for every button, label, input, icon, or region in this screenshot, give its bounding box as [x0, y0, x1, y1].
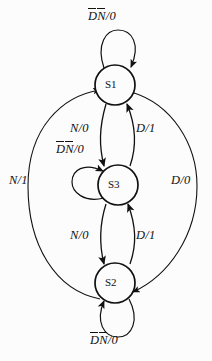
edge-label-s2-to-s1: N/1	[9, 173, 28, 188]
self-loop-label-s1: DN/0	[88, 9, 116, 24]
edge-label-s1-to-s3: N/0	[70, 121, 89, 136]
negated-d-symbol: D	[90, 333, 99, 348]
state-label-s3: S3	[108, 178, 120, 190]
edge-s2-to-s3	[128, 204, 135, 264]
self-loop-s1	[101, 30, 135, 68]
self-loop-output-s2: /0	[108, 333, 118, 347]
state-diagram-canvas: S1 S3 S2 DN/0 DN/0 DN/0 N/0 D/1 N/0 D/1 …	[0, 0, 212, 361]
edge-label-s3-to-s2: N/0	[70, 228, 89, 243]
edge-s3-to-s2	[100, 204, 106, 264]
negated-n-symbol: N	[97, 9, 106, 24]
self-loop-output-s3: /0	[74, 142, 84, 156]
negated-d-symbol: D	[56, 142, 65, 157]
negated-d-symbol: D	[88, 9, 97, 24]
negated-n-symbol: N	[99, 333, 108, 348]
negated-n-symbol: N	[65, 142, 74, 157]
self-loop-output-s1: /0	[106, 9, 116, 23]
self-loop-label-s3: DN/0	[56, 142, 84, 157]
edge-label-s2-to-s3: D/1	[136, 228, 155, 243]
edge-s1-to-s3	[100, 104, 106, 166]
state-label-s1: S1	[105, 78, 117, 90]
edge-label-s3-to-s1: D/1	[136, 121, 155, 136]
edge-label-s1-to-s2: D/0	[171, 173, 190, 188]
state-label-s2: S2	[105, 276, 117, 288]
edge-s3-to-s1	[127, 104, 135, 166]
edge-s2-to-s1	[28, 90, 100, 299]
self-loop-label-s2: DN/0	[90, 333, 118, 348]
